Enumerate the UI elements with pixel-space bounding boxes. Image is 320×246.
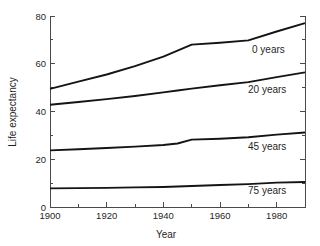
y-axis-title: Life expectancy (7, 77, 18, 147)
chart-canvas: 020406080 19001920194019601980 Year Life… (0, 0, 320, 246)
x-tick-label: 1980 (266, 210, 287, 221)
x-axis-major-ticks (50, 202, 277, 207)
series-label-45-years: 45 years (248, 141, 286, 152)
y-axis-tick-labels: 020406080 (35, 11, 46, 213)
series-label-20-years: 20 years (248, 84, 286, 95)
y-tick-label: 80 (35, 11, 46, 22)
y-tick-label: 40 (35, 106, 46, 117)
x-axis-tick-labels: 19001920194019601980 (39, 210, 287, 221)
y-tick-label: 60 (35, 58, 46, 69)
x-axis-title: Year (156, 229, 177, 240)
series-label-0-years: 0 years (252, 44, 285, 55)
x-tick-label: 1960 (209, 210, 230, 221)
life-expectancy-chart: 020406080 19001920194019601980 Year Life… (0, 0, 320, 246)
x-tick-label: 1900 (39, 210, 60, 221)
series-label-75-years: 75 years (248, 185, 286, 196)
x-tick-label: 1940 (153, 210, 174, 221)
y-axis-minor-ticks (50, 40, 305, 183)
x-tick-label: 1920 (96, 210, 117, 221)
y-tick-label: 20 (35, 154, 46, 165)
